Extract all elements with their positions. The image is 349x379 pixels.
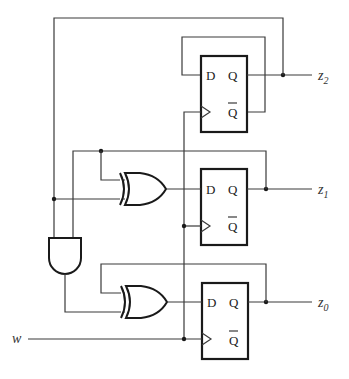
- flipflop-z1: D Q Q z1: [201, 169, 328, 245]
- ff2-d-label: D: [206, 68, 215, 83]
- and-gate: [49, 238, 81, 274]
- xor-gate-0: [121, 286, 167, 318]
- ff0-qbar-label: Q: [229, 333, 239, 348]
- circuit-diagram: D Q Q z2 D Q Q z1 D Q: [0, 0, 349, 379]
- flipflop-z2: D Q Q z2: [182, 37, 328, 132]
- ff1-qbar-label: Q: [228, 219, 238, 234]
- ff2-qbar-label: Q: [228, 105, 238, 120]
- xor-gate-1: [120, 173, 166, 205]
- output-z0-label: z0: [317, 295, 328, 313]
- ff1-q-label: Q: [228, 182, 238, 197]
- ff2-q-label: Q: [228, 68, 238, 83]
- flipflop-z0: D Q Q z0: [202, 283, 328, 359]
- wire-z2-feedback: [54, 18, 283, 238]
- output-z2-label: z2: [317, 68, 328, 86]
- ff1-d-label: D: [206, 182, 215, 197]
- input-w-label: w: [12, 331, 22, 346]
- ff0-q-label: Q: [229, 295, 239, 310]
- output-z1-label: z1: [317, 182, 328, 200]
- ff0-d-label: D: [207, 295, 216, 310]
